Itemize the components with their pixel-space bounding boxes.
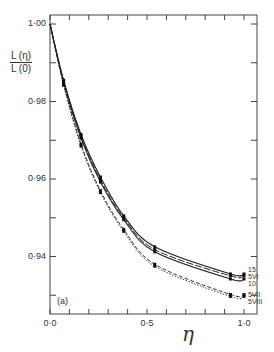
data-point (153, 250, 156, 253)
data-point (99, 181, 102, 184)
data-point (80, 137, 83, 140)
data-point (153, 265, 156, 268)
x-tick-label: 1·0 (229, 318, 259, 328)
data-point (243, 277, 246, 280)
y-axis-label-denominator: L (0) (11, 63, 31, 74)
series-line-5viii (50, 24, 244, 299)
data-point (229, 277, 232, 280)
series-label-15: 15 (248, 266, 256, 273)
x-tick-label: 0·0 (35, 318, 65, 328)
series-line-5vi (50, 24, 244, 278)
y-axis-label: L (η) L (0) (4, 50, 38, 75)
series-label-5vi: 5VI (248, 273, 259, 280)
series-line-15 (50, 24, 244, 276)
x-tick-label: 0·5 (132, 318, 162, 328)
data-point (80, 145, 83, 148)
data-markers (62, 79, 245, 298)
data-point (153, 245, 156, 248)
data-point (229, 295, 232, 298)
figure: 1·000·980·960·94 0·00·51·0 L (η) L (0) η… (0, 0, 274, 352)
series-label-10: 10 (248, 280, 256, 287)
axes-frame (50, 15, 257, 314)
series-label-5viii: 5VIII (248, 298, 262, 305)
data-point (99, 176, 102, 179)
series-label-5vii: 5VII (248, 291, 260, 298)
data-point (62, 84, 65, 87)
data-point (99, 191, 102, 194)
y-tick-label: 1·00 (6, 18, 46, 28)
axes (50, 15, 257, 314)
data-point (243, 295, 246, 298)
y-axis-label-numerator: L (η) (10, 50, 32, 63)
data-point (122, 230, 125, 233)
y-tick-label: 0·96 (6, 173, 46, 183)
y-tick-label: 0·94 (6, 251, 46, 261)
data-point (229, 274, 232, 277)
curves (50, 24, 244, 299)
panel-label: (a) (57, 296, 68, 306)
y-tick-label: 0·98 (6, 96, 46, 106)
data-point (122, 218, 125, 221)
data-point (243, 274, 246, 277)
series-line-5vii (50, 24, 244, 297)
x-axis-label: η (182, 322, 194, 346)
